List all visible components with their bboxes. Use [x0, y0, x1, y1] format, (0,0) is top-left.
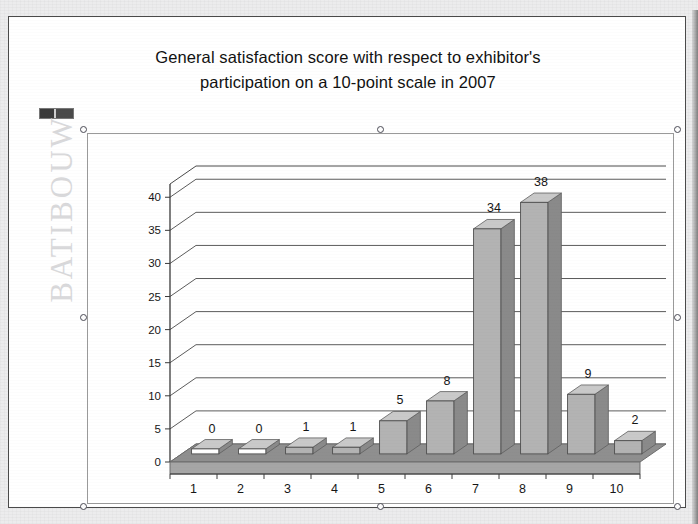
page-title: General satisfaction score with respect … [49, 45, 647, 95]
bar-front-face [380, 421, 407, 454]
handle-middle-left[interactable] [80, 314, 87, 321]
ytick-label-25: 25 [148, 291, 161, 303]
title-line-1: General satisfaction score with respect … [49, 45, 647, 70]
bar-front-face [474, 229, 501, 454]
xtick-label-5: 5 [378, 482, 385, 496]
chart-border: 051015202530354001021314558634738899210 [87, 133, 674, 504]
handle-top-center[interactable] [377, 126, 384, 133]
bar-front-face [286, 447, 313, 454]
ytick-label-35: 35 [148, 224, 161, 236]
ytick-label-0: 0 [155, 456, 161, 468]
bar-front-face [333, 447, 360, 454]
bar-front-face [192, 449, 219, 454]
xtick-label-3: 3 [284, 482, 291, 496]
ytick-label-5: 5 [155, 423, 161, 435]
bar-value-label-1: 0 [208, 422, 215, 436]
bar-value-label-8: 38 [534, 175, 548, 189]
handle-top-right[interactable] [674, 126, 681, 133]
xtick-label-7: 7 [472, 482, 479, 496]
bar-value-label-9: 9 [584, 367, 591, 381]
chart-floor-front [170, 462, 640, 474]
ytick-label-10: 10 [148, 390, 161, 402]
bar-value-label-5: 5 [396, 393, 403, 407]
bar-value-label-7: 34 [487, 201, 501, 215]
ytick-label-15: 15 [148, 357, 161, 369]
bar-side-face [548, 193, 562, 454]
handle-bottom-left[interactable] [80, 503, 87, 510]
bar-value-label-4: 1 [349, 420, 356, 434]
bar-side-face [454, 392, 468, 454]
bar-value-label-3: 1 [302, 420, 309, 434]
bar-7[interactable] [474, 219, 515, 453]
bar-value-label-2: 0 [255, 422, 262, 436]
bar-front-face [568, 394, 595, 454]
handle-middle-right[interactable] [674, 314, 681, 321]
chart-plot-area: 051015202530354001021314558634738899210 [118, 140, 678, 500]
xtick-label-6: 6 [425, 482, 432, 496]
bar-8[interactable] [521, 193, 562, 454]
xtick-label-10: 10 [610, 482, 624, 496]
handle-bottom-right[interactable] [674, 503, 681, 510]
title-line-2: participation on a 10-point scale in 200… [49, 70, 647, 95]
scanned-page: General satisfaction score with respect … [0, 0, 698, 524]
chart-object[interactable]: 051015202530354001021314558634738899210 [83, 129, 678, 507]
xtick-label-1: 1 [190, 482, 197, 496]
xtick-label-8: 8 [519, 482, 526, 496]
ytick-label-20: 20 [148, 324, 161, 336]
bar-front-face [615, 441, 642, 454]
bar-front-face [239, 449, 266, 454]
bar-front-face [521, 202, 548, 454]
xtick-label-4: 4 [331, 482, 338, 496]
handle-top-left[interactable] [80, 126, 87, 133]
xtick-label-9: 9 [566, 482, 573, 496]
bar-5[interactable] [380, 411, 421, 453]
bar-6[interactable] [427, 392, 468, 454]
bar-value-label-6: 8 [443, 374, 450, 388]
ytick-label-40: 40 [148, 191, 161, 203]
watermark-label: BATIBOUW [44, 109, 80, 309]
scan-edge-shadow [692, 10, 698, 524]
bar-value-label-10: 2 [631, 413, 638, 427]
bar-side-face [501, 219, 515, 453]
xtick-label-2: 2 [237, 482, 244, 496]
handle-bottom-center[interactable] [377, 503, 384, 510]
bar-chart-3d: 051015202530354001021314558634738899210 [118, 140, 678, 500]
bar-front-face [427, 401, 454, 454]
ytick-label-30: 30 [148, 257, 161, 269]
bar-9[interactable] [568, 385, 609, 454]
bar-side-face [595, 385, 609, 454]
slide-frame: General satisfaction score with respect … [8, 16, 686, 508]
